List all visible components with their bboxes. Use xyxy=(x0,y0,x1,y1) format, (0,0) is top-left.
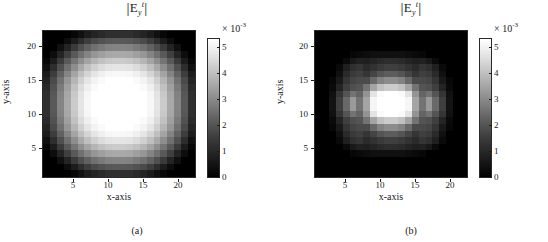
heat-cell xyxy=(336,131,343,138)
heat-cell xyxy=(398,137,405,144)
heat-cell xyxy=(391,91,398,98)
heat-cell xyxy=(363,38,370,45)
heat-cell xyxy=(391,64,398,71)
heat-cell xyxy=(370,104,377,111)
heat-cell xyxy=(377,38,384,45)
heat-cell xyxy=(105,58,112,65)
panel-a-colorbar-exponent-power: -3 xyxy=(240,21,246,29)
heat-cell xyxy=(398,58,405,65)
heat-cell xyxy=(343,104,350,111)
heat-cell xyxy=(350,84,357,91)
panel-a-caption: (a) xyxy=(0,226,274,236)
heat-cell xyxy=(446,137,453,144)
heat-cell xyxy=(64,170,71,177)
heat-cell xyxy=(43,58,50,65)
heat-cell xyxy=(412,150,419,157)
panel-a-heatmap xyxy=(43,31,195,177)
heat-cell xyxy=(343,144,350,151)
heat-cell xyxy=(363,51,370,58)
heat-cell xyxy=(363,170,370,177)
heat-cell xyxy=(426,71,433,78)
heat-cell xyxy=(98,38,105,45)
heat-cell xyxy=(105,157,112,164)
heat-cell xyxy=(140,38,147,45)
heat-cell xyxy=(384,117,391,124)
heat-cell xyxy=(322,91,329,98)
heat-cell xyxy=(363,97,370,104)
heat-cell xyxy=(167,64,174,71)
panel-b-title: |Eyt| xyxy=(274,1,548,17)
heat-cell xyxy=(174,131,181,138)
heat-cell xyxy=(50,144,57,151)
heat-cell xyxy=(391,51,398,58)
heat-cell xyxy=(453,117,460,124)
heat-cell xyxy=(112,164,119,171)
heat-cell xyxy=(133,170,140,177)
heat-cell xyxy=(126,144,133,151)
heat-cell xyxy=(336,97,343,104)
heat-cell xyxy=(432,97,439,104)
heat-cell xyxy=(439,51,446,58)
heat-cell xyxy=(405,131,412,138)
heat-cell xyxy=(133,111,140,118)
heat-cell xyxy=(57,104,64,111)
heat-cell xyxy=(140,58,147,65)
heat-cell xyxy=(154,150,161,157)
heat-cell xyxy=(350,150,357,157)
heat-cell xyxy=(356,117,363,124)
panel-b-ytick-mark-20 xyxy=(311,46,314,47)
heat-cell xyxy=(377,97,384,104)
heat-cell xyxy=(322,104,329,111)
heat-cell xyxy=(329,144,336,151)
heat-cell xyxy=(133,144,140,151)
heat-cell xyxy=(50,111,57,118)
heat-cell xyxy=(188,71,195,78)
heat-cell xyxy=(181,144,188,151)
heat-cell xyxy=(181,157,188,164)
heat-cell xyxy=(174,58,181,65)
heat-cell xyxy=(405,44,412,51)
heat-cell xyxy=(78,31,85,38)
heat-cell xyxy=(112,170,119,177)
heat-cell xyxy=(426,150,433,157)
heat-cell xyxy=(370,137,377,144)
heat-cell xyxy=(147,91,154,98)
figure-two-panel-heatmaps: |Eyt| 5 10 15 20 5 10 15 20 x-axis y-axi… xyxy=(0,0,548,242)
heat-cell xyxy=(370,117,377,124)
heat-cell xyxy=(432,164,439,171)
heat-cell xyxy=(370,71,377,78)
heat-cell xyxy=(446,58,453,65)
heat-cell xyxy=(384,104,391,111)
heat-cell xyxy=(446,44,453,51)
heat-cell xyxy=(336,64,343,71)
heat-cell xyxy=(405,64,412,71)
heat-cell xyxy=(174,31,181,38)
heat-cell xyxy=(43,77,50,84)
heat-cell xyxy=(350,170,357,177)
heat-cell xyxy=(57,31,64,38)
heat-cell xyxy=(412,97,419,104)
heat-cell xyxy=(460,170,467,177)
heat-cell xyxy=(112,38,119,45)
heat-cell xyxy=(356,164,363,171)
heat-cell xyxy=(154,164,161,171)
heat-cell xyxy=(160,131,167,138)
heat-cell xyxy=(453,58,460,65)
heat-cell xyxy=(446,124,453,131)
heat-cell xyxy=(78,77,85,84)
panel-a-ytick-mark-10 xyxy=(39,114,42,115)
panel-a-xtick-20: 20 xyxy=(174,181,183,190)
heat-cell xyxy=(350,38,357,45)
heat-cell xyxy=(64,71,71,78)
panel-b-cbar-mark-1 xyxy=(489,151,492,152)
heat-cell xyxy=(91,117,98,124)
heat-cell xyxy=(50,77,57,84)
heat-cell xyxy=(112,91,119,98)
panel-a-cbar-mark-2 xyxy=(217,125,220,126)
heat-cell xyxy=(405,84,412,91)
heat-cell xyxy=(343,77,350,84)
heat-cell xyxy=(57,44,64,51)
heat-cell xyxy=(363,111,370,118)
heat-cell xyxy=(370,144,377,151)
heat-cell xyxy=(181,71,188,78)
